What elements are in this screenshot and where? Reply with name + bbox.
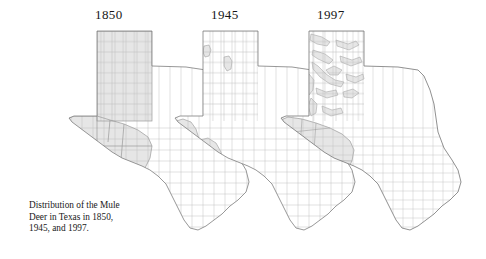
mule-deer-distribution-figure: 1850 1945 1997 bbox=[0, 0, 486, 259]
figure-caption: Distribution of the Mule Deer in Texas i… bbox=[29, 200, 154, 235]
